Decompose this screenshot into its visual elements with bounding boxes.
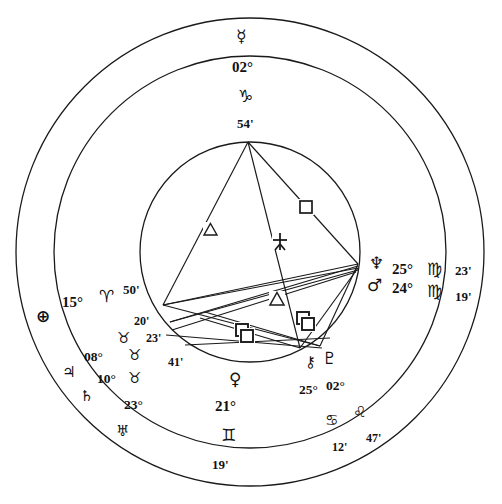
aspect-line-bottom-chord-2	[185, 338, 330, 345]
neptune-minute: 23'	[455, 264, 472, 277]
astrology-chart-wheel: ☿ 02° ♑ 54' ♆ 25° ♍ 23' ♂ 24° ♍ 19' ⚷ 25…	[0, 0, 502, 504]
chiron-minute: 12'	[332, 441, 347, 453]
jupiter-degree: 08°	[84, 350, 103, 364]
venus-glyph: ♀	[229, 371, 241, 388]
jupiter-glyph: ♃	[62, 365, 75, 380]
neptune-glyph: ♆	[369, 255, 384, 272]
trine-marker-lower-center	[269, 291, 285, 307]
earth-degree: 15°	[62, 295, 83, 310]
pluto-minute: 47'	[366, 432, 381, 444]
uranus-glyph: ♅	[116, 424, 129, 439]
mars-glyph: ♂	[367, 277, 382, 294]
chiron-degree: 25°	[299, 383, 318, 397]
saturn-glyph: ♄	[80, 389, 93, 404]
pluto-glyph: ♇	[322, 350, 337, 367]
aspect-marker-group	[203, 199, 316, 344]
mercury-sign-capricorn: ♑	[238, 88, 253, 105]
wheel-graphic	[0, 0, 502, 504]
mars-minute: 19'	[455, 290, 472, 303]
venus-minute: 19'	[212, 458, 229, 471]
square-marker-upper-right	[298, 199, 314, 215]
uranus-degree: 23°	[124, 398, 143, 412]
aspect-line-left-right-upper	[163, 264, 358, 305]
venus-degree: 21°	[215, 399, 236, 414]
neptune-degree: 25°	[392, 262, 413, 277]
aspect-line-lowerleft-right-2	[170, 270, 358, 322]
mercury-degree: 02°	[232, 60, 253, 75]
aspect-line-left-right-upper-2	[163, 268, 358, 305]
neptune-sign-virgo: ♍	[427, 261, 442, 278]
saturn-sign-taurus: ♉	[128, 348, 141, 363]
square-marker-lower-left-b	[239, 328, 255, 344]
pluto-sign-leo: ♌	[353, 405, 366, 420]
saturn-degree: 10°	[97, 372, 116, 386]
earth-minute: 50'	[123, 283, 140, 296]
chiron-glyph: ⚷	[305, 355, 316, 370]
trine-marker-upper-left	[203, 222, 218, 237]
jupiter-sign-taurus: ♉	[117, 331, 130, 346]
mercury-minute: 54'	[237, 117, 254, 130]
earth-sign-aries: ♈	[99, 288, 114, 305]
square-marker-lower-right-b	[300, 316, 316, 332]
jupiter-minute: 20'	[134, 315, 149, 327]
quincunx-marker-center	[272, 232, 288, 250]
earth-glyph: ⊕	[36, 308, 50, 325]
uranus-sign-taurus: ♉	[128, 371, 141, 386]
aspect-lines	[163, 142, 358, 348]
mars-degree: 24°	[392, 281, 413, 296]
saturn-minute: 23'	[146, 332, 161, 344]
pluto-degree: 02°	[326, 379, 345, 393]
mars-sign-virgo: ♍	[427, 283, 442, 300]
middle-circle	[54, 56, 446, 448]
uranus-minute: 41'	[168, 356, 183, 368]
aspect-line-lowerleft-right-3	[172, 272, 356, 330]
venus-sign-gemini: ♊	[221, 427, 236, 444]
chiron-sign-cancer: ♋	[325, 413, 338, 428]
aspect-line-lowerleft-right	[170, 266, 358, 322]
mercury-glyph: ☿	[236, 28, 246, 45]
